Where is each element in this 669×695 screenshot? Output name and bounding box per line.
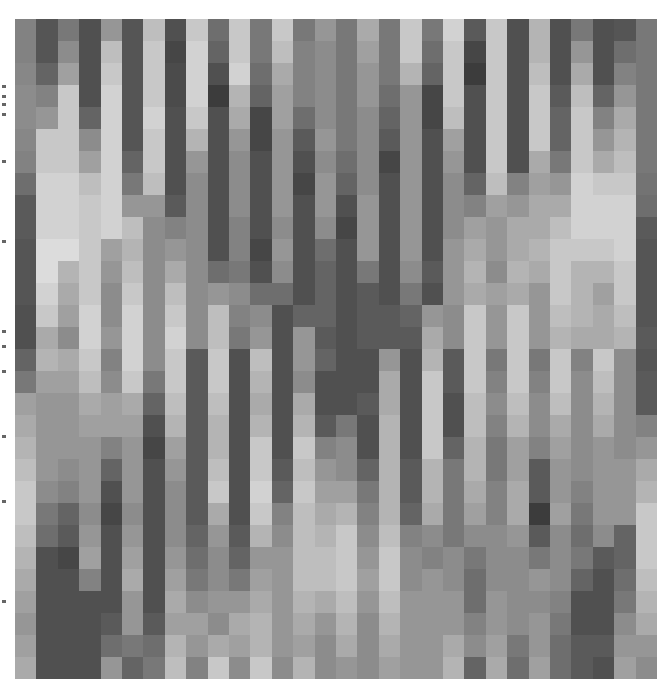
mosaic-cell — [229, 327, 250, 349]
mosaic-cell — [143, 283, 164, 305]
mosaic-cell — [357, 349, 378, 371]
mosaic-cell — [550, 613, 571, 635]
mosaic-cell — [550, 85, 571, 107]
mosaic-cell — [486, 459, 507, 481]
mosaic-cell — [614, 239, 635, 261]
mosaic-cell — [593, 173, 614, 195]
mosaic-cell — [486, 239, 507, 261]
mosaic-cell — [336, 327, 357, 349]
mosaic-cell — [208, 239, 229, 261]
mosaic-cell — [229, 261, 250, 283]
mosaic-cell — [379, 173, 400, 195]
mosaic-cell — [79, 85, 100, 107]
mosaic-cell — [293, 129, 314, 151]
mosaic-cell — [529, 85, 550, 107]
mosaic-cell — [186, 349, 207, 371]
mosaic-cell — [614, 459, 635, 481]
mosaic-cell — [186, 129, 207, 151]
mosaic-cell — [593, 393, 614, 415]
mosaic-cell — [208, 217, 229, 239]
mosaic-cell — [443, 481, 464, 503]
mosaic-cell — [15, 393, 36, 415]
mosaic-cell — [507, 173, 528, 195]
mosaic-cell — [507, 283, 528, 305]
mosaic-cell — [101, 327, 122, 349]
mosaic-cell — [400, 129, 421, 151]
mosaic-cell — [58, 635, 79, 657]
mosaic-cell — [464, 635, 485, 657]
mosaic-cell — [593, 349, 614, 371]
mosaic-cell — [593, 481, 614, 503]
mosaic-cell — [250, 85, 271, 107]
mosaic-cell — [293, 371, 314, 393]
mosaic-cell — [443, 261, 464, 283]
edge-tick-mark — [2, 330, 6, 333]
mosaic-cell — [636, 239, 657, 261]
mosaic-cell — [58, 591, 79, 613]
mosaic-cell — [593, 459, 614, 481]
mosaic-cell — [357, 151, 378, 173]
mosaic-cell — [315, 151, 336, 173]
mosaic-cell — [443, 415, 464, 437]
mosaic-cell — [229, 151, 250, 173]
mosaic-cell — [443, 327, 464, 349]
mosaic-cell — [400, 305, 421, 327]
mosaic-cell — [79, 107, 100, 129]
mosaic-cell — [571, 349, 592, 371]
mosaic-cell — [464, 195, 485, 217]
mosaic-cell — [315, 503, 336, 525]
mosaic-cell — [101, 371, 122, 393]
mosaic-cell — [165, 283, 186, 305]
mosaic-cell — [593, 437, 614, 459]
mosaic-cell — [529, 415, 550, 437]
mosaic-cell — [636, 327, 657, 349]
mosaic-cell — [186, 173, 207, 195]
mosaic-cell — [571, 107, 592, 129]
mosaic-cell — [507, 415, 528, 437]
mosaic-cell — [486, 481, 507, 503]
mosaic-cell — [571, 239, 592, 261]
mosaic-cell — [336, 503, 357, 525]
mosaic-cell — [571, 635, 592, 657]
mosaic-cell — [336, 283, 357, 305]
mosaic-cell — [443, 217, 464, 239]
mosaic-cell — [379, 151, 400, 173]
mosaic-cell — [550, 481, 571, 503]
mosaic-cell — [357, 525, 378, 547]
mosaic-cell — [143, 481, 164, 503]
mosaic-cell — [507, 129, 528, 151]
mosaic-cell — [636, 19, 657, 41]
mosaic-cell — [636, 85, 657, 107]
mosaic-cell — [464, 437, 485, 459]
mosaic-cell — [507, 217, 528, 239]
mosaic-cell — [58, 547, 79, 569]
mosaic-cell — [36, 305, 57, 327]
mosaic-cell — [422, 129, 443, 151]
mosaic-cell — [101, 393, 122, 415]
mosaic-cell — [165, 239, 186, 261]
mosaic-cell — [571, 569, 592, 591]
mosaic-cell — [379, 371, 400, 393]
mosaic-cell — [422, 349, 443, 371]
mosaic-cell — [550, 151, 571, 173]
mosaic-cell — [272, 547, 293, 569]
mosaic-cell — [357, 437, 378, 459]
mosaic-cell — [593, 525, 614, 547]
mosaic-cell — [36, 195, 57, 217]
mosaic-cell — [101, 437, 122, 459]
mosaic-cell — [422, 393, 443, 415]
mosaic-cell — [593, 19, 614, 41]
mosaic-cell — [315, 217, 336, 239]
mosaic-cell — [422, 415, 443, 437]
edge-tick-mark — [2, 95, 6, 98]
mosaic-cell — [571, 371, 592, 393]
mosaic-cell — [507, 547, 528, 569]
mosaic-cell — [571, 63, 592, 85]
mosaic-cell — [486, 349, 507, 371]
edge-tick-mark — [2, 345, 6, 348]
mosaic-cell — [272, 503, 293, 525]
mosaic-cell — [229, 547, 250, 569]
mosaic-cell — [443, 239, 464, 261]
mosaic-cell — [336, 371, 357, 393]
mosaic-cell — [15, 415, 36, 437]
